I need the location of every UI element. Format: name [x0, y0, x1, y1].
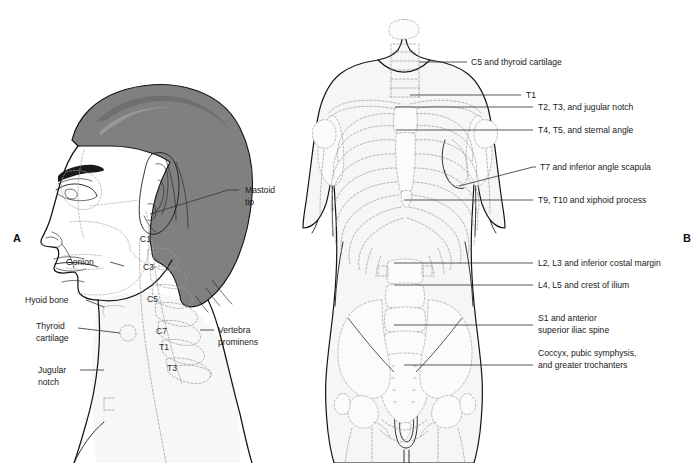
label-vertebra-prominens-line1: Vertebra	[218, 325, 251, 335]
label-c5-thyroid-cartilage: C5 and thyroid cartilage	[471, 57, 562, 67]
label-l4-l5-crest-of-ilium: L4, L5 and crest of ilium	[538, 280, 629, 290]
label-mastoid-tip-line2: tip	[245, 197, 254, 207]
nostril	[46, 237, 58, 240]
label-t9-t10-xiphoid-process: T9, T10 and xiphoid process	[538, 195, 646, 205]
vertebra-label-c3: C3	[143, 262, 154, 272]
label-coccyx-pubic-line2: and greater trochanters	[538, 360, 627, 370]
panel-b-group	[303, 20, 536, 463]
chin-crease	[62, 281, 84, 283]
vertebra-label-t3: T3	[167, 363, 177, 373]
panel-letter-b: B	[683, 232, 691, 244]
vertebra-label-c5: C5	[147, 294, 158, 304]
eye-iris	[65, 189, 77, 199]
nose-group	[46, 232, 62, 247]
label-jugular-notch-line1: Jugular	[38, 365, 66, 375]
label-s1-asis-line2: superior iliac spine	[538, 325, 609, 335]
vertebra-label-t1: T1	[159, 342, 169, 352]
vertebra-label-c7: C7	[156, 326, 167, 336]
label-thyroid-cartilage-line1: Thyroid	[36, 321, 65, 331]
label-t7-inferior-angle-scapula: T7 and inferior angle scapula	[540, 162, 651, 172]
label-t4-t5-sternal-angle: T4, T5, and sternal angle	[538, 125, 634, 135]
figure-canvas: A B Mastoid tip Gonion Hyoid bone Thyroi…	[0, 0, 700, 463]
hair-mass	[72, 85, 253, 307]
eye-upper-lid	[56, 184, 97, 196]
nose-ala	[52, 232, 62, 247]
label-l2-l3-inferior-costal-margin: L2, L3 and inferior costal margin	[538, 258, 661, 268]
label-jugular-notch-line2: notch	[38, 377, 59, 387]
panel-letter-a: A	[13, 232, 21, 244]
label-vertebra-prominens-line2: prominens	[218, 337, 258, 347]
label-gonion: Gonion	[66, 257, 94, 267]
leader-gonion	[110, 262, 124, 266]
label-t2-t3-jugular-notch: T2, T3, and jugular notch	[538, 102, 634, 112]
label-hyoid-bone: Hyoid bone	[25, 295, 69, 305]
vertebra-label-c1: C1	[140, 234, 151, 244]
label-thyroid-cartilage-line2: cartilage	[36, 333, 69, 343]
neck-fill	[92, 292, 240, 463]
label-mastoid-tip-line1: Mastoid	[245, 185, 275, 195]
label-s1-asis-line1: S1 and anterior	[538, 313, 597, 323]
label-t1: T1	[526, 90, 536, 100]
anatomy-illustration: A B Mastoid tip Gonion Hyoid bone Thyroi…	[0, 0, 700, 463]
label-coccyx-pubic-line1: Coccyx, pubic symphysis,	[538, 348, 636, 358]
panel-a-group	[41, 85, 253, 463]
